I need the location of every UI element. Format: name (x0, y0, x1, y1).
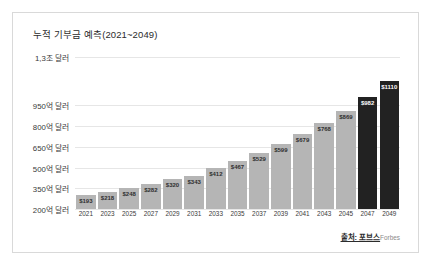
x-axis-tick: 2039 (271, 210, 290, 217)
x-axis-tick: 2045 (336, 210, 355, 217)
x-axis-tick: 2047 (358, 210, 377, 217)
x-axis-ticks: 2021202320252027202920312033203520372039… (75, 210, 400, 217)
page-title: 누적 기부금 예측(2021~2049) (33, 27, 157, 41)
bar-column[interactable]: $529 (249, 57, 268, 209)
bar-value-label: $529 (253, 156, 266, 162)
bar-value-label: $248 (122, 191, 135, 197)
x-axis-tick: 2029 (163, 210, 182, 217)
y-axis-label: 350억 달러 (33, 183, 69, 194)
bar[interactable]: $679 (293, 134, 312, 209)
bar-column[interactable]: $599 (271, 57, 290, 209)
bar[interactable]: $869 (336, 111, 355, 209)
bar[interactable]: $599 (271, 144, 290, 209)
bar-series: $193$218$248$282$320$343$412$467$529$599… (75, 57, 400, 209)
bar-column[interactable]: $982 (358, 57, 377, 209)
bar[interactable]: $282 (141, 184, 160, 209)
bar[interactable]: $248 (119, 188, 138, 209)
source-link[interactable]: 출처: 포브스 (341, 233, 381, 242)
chart-card: 누적 기부금 예측(2021~2049) 1,3조 달러950억 달러800억 … (12, 12, 419, 253)
bar-column[interactable]: $248 (119, 57, 138, 209)
bar[interactable]: $768 (314, 123, 333, 209)
bar-value-label: $193 (79, 198, 92, 204)
y-axis-label: 500억 달러 (33, 162, 69, 173)
y-axis-label: 650억 달러 (33, 141, 69, 152)
bar[interactable]: $467 (228, 161, 247, 209)
plot-area: 1,3조 달러950억 달러800억 달러650억 달러500억 달러350억 … (75, 57, 400, 209)
bar-value-label: $282 (144, 187, 157, 193)
bar-column[interactable]: $768 (314, 57, 333, 209)
bar-column[interactable]: $320 (163, 57, 182, 209)
x-axis-tick: 2049 (380, 210, 399, 217)
bar-column[interactable]: $467 (228, 57, 247, 209)
x-axis-tick: 2025 (119, 210, 138, 217)
bar-value-label: $599 (274, 147, 287, 153)
bar-value-label: $982 (361, 100, 374, 106)
bar-value-label: $343 (188, 179, 201, 185)
bar-column[interactable]: $412 (206, 57, 225, 209)
x-axis-tick: 2021 (76, 210, 95, 217)
bar[interactable]: $320 (163, 179, 182, 209)
bar-value-label: $869 (339, 114, 352, 120)
bar-value-label: $320 (166, 182, 179, 188)
x-axis-tick: 2035 (228, 210, 247, 217)
bar-value-label: $768 (318, 126, 331, 132)
bar-value-label: $679 (296, 137, 309, 143)
bar-column[interactable]: $679 (293, 57, 312, 209)
bar-value-label: $467 (231, 164, 244, 170)
x-axis-tick: 2027 (141, 210, 160, 217)
bar-value-label: $412 (209, 171, 222, 177)
bar-value-label: $218 (101, 195, 114, 201)
bar[interactable]: $218 (98, 192, 117, 209)
y-axis-label: 1,3조 달러 (35, 52, 69, 63)
x-axis-tick: 2023 (98, 210, 117, 217)
bar-column[interactable]: $869 (336, 57, 355, 209)
bar[interactable]: $982 (358, 97, 377, 209)
bar-column[interactable]: $343 (184, 57, 203, 209)
x-axis-tick: 2031 (184, 210, 203, 217)
bar[interactable]: $1110 (380, 81, 399, 209)
bar[interactable]: $193 (76, 195, 95, 209)
bar-column[interactable]: $282 (141, 57, 160, 209)
y-axis-label: 800억 달러 (33, 121, 69, 132)
y-axis-label: 200억 달러 (33, 204, 69, 215)
x-axis-tick: 2037 (249, 210, 268, 217)
source-attribution: 출처: 포브스Forbes (341, 231, 400, 242)
bar-column[interactable]: $218 (98, 57, 117, 209)
bar[interactable]: $529 (249, 153, 268, 209)
bar-column[interactable]: $193 (76, 57, 95, 209)
bar-value-label: $1110 (381, 84, 397, 90)
source-suffix: Forbes (380, 234, 400, 241)
bar[interactable]: $412 (206, 168, 225, 209)
x-axis-tick: 2041 (293, 210, 312, 217)
y-axis-label: 950억 달러 (33, 100, 69, 111)
x-axis-tick: 2033 (206, 210, 225, 217)
bar-column[interactable]: $1110 (380, 57, 399, 209)
x-axis-tick: 2043 (314, 210, 333, 217)
bar[interactable]: $343 (184, 176, 203, 209)
